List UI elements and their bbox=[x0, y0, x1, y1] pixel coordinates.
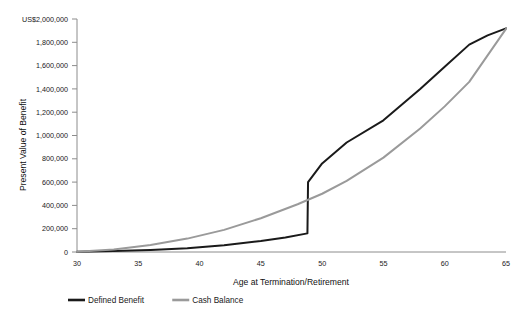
series-line-defined-benefit bbox=[77, 28, 506, 251]
y-tick-label: 1,800,000 bbox=[36, 38, 68, 47]
y-tick-label: 800,000 bbox=[42, 154, 68, 163]
x-axis-title: Age at Termination/Retirement bbox=[233, 277, 350, 287]
y-tick-label: US$2,000,000 bbox=[22, 15, 68, 24]
y-tick-marks bbox=[72, 19, 77, 252]
x-tick-label: 30 bbox=[73, 259, 81, 268]
legend-label: Cash Balance bbox=[192, 296, 243, 305]
y-tick-label: 1,200,000 bbox=[36, 108, 68, 117]
y-tick-label: 1,400,000 bbox=[36, 85, 68, 94]
present-value-of-benefit-line-chart: 0200,000400,000600,000800,0001,000,0001,… bbox=[0, 0, 521, 322]
y-tick-label: 1,000,000 bbox=[36, 131, 68, 140]
y-tick-labels: 0200,000400,000600,000800,0001,000,0001,… bbox=[22, 15, 68, 257]
data-series-group bbox=[77, 28, 506, 251]
y-tick-label: 400,000 bbox=[42, 201, 68, 210]
x-tick-label: 60 bbox=[441, 259, 449, 268]
x-tick-label: 40 bbox=[196, 259, 204, 268]
y-tick-label: 200,000 bbox=[42, 224, 68, 233]
legend-label: Defined Benefit bbox=[88, 296, 145, 305]
y-tick-label: 600,000 bbox=[42, 178, 68, 187]
y-axis-title: Present Value of Benefit bbox=[18, 98, 28, 191]
y-axis-group: 0200,000400,000600,000800,0001,000,0001,… bbox=[22, 15, 77, 257]
y-tick-label: 0 bbox=[64, 248, 68, 257]
x-tick-labels: 3035404550556065 bbox=[73, 259, 510, 268]
chart-container: 0200,000400,000600,000800,0001,000,0001,… bbox=[0, 0, 521, 322]
x-tick-label: 65 bbox=[502, 259, 510, 268]
x-tick-label: 50 bbox=[318, 259, 326, 268]
series-line-cash-balance bbox=[77, 29, 506, 252]
x-tick-label: 55 bbox=[379, 259, 387, 268]
chart-legend: Defined BenefitCash Balance bbox=[68, 296, 244, 305]
x-tick-label: 45 bbox=[257, 259, 265, 268]
x-axis-group: 3035404550556065 bbox=[73, 252, 510, 268]
y-tick-label: 1,600,000 bbox=[36, 61, 68, 70]
x-tick-label: 35 bbox=[134, 259, 142, 268]
